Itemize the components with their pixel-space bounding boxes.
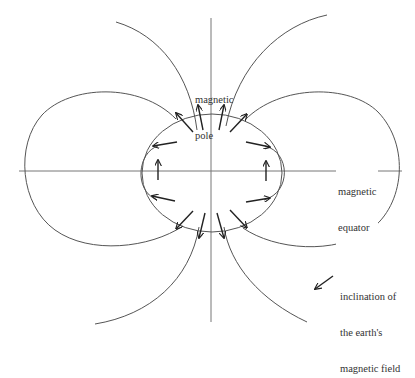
field-line-left-small-loop xyxy=(141,146,158,200)
pole-label-line-1: magnetic xyxy=(195,94,233,106)
inclination-legend-label: inclination of the earth's magnetic fiel… xyxy=(340,267,400,378)
legend-label-line-3: magnetic field xyxy=(340,363,400,375)
field-line-upper-right xyxy=(226,15,327,126)
legend-label-line-1: inclination of xyxy=(340,291,400,303)
equator-label-line-1: magnetic xyxy=(338,186,376,198)
field-line-right-small-loop xyxy=(264,146,284,200)
magnetic-equator-label: magnetic equator xyxy=(336,162,378,246)
equator-label-line-2: equator xyxy=(338,222,376,234)
field-line-upper-left xyxy=(116,22,197,130)
legend-label-line-2: the earth's xyxy=(340,327,400,339)
legend-inclination-arrow xyxy=(315,276,333,289)
field-line-lower-right xyxy=(224,227,307,322)
magnetic-pole-label: magnetic pole xyxy=(195,70,233,154)
pole-label-line-2: pole xyxy=(195,130,233,142)
field-line-left-lobe xyxy=(25,92,183,246)
